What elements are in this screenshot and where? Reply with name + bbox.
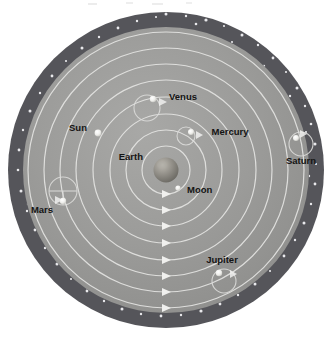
body-moon [175,185,180,190]
body-venus [150,96,156,102]
label-mars: Mars [31,204,53,215]
earth-highlight [157,162,167,169]
body-jupiter [216,270,222,276]
body-earth [154,158,179,183]
label-saturn: Saturn [286,155,316,166]
label-sun: Sun [69,122,87,133]
label-mercury: Mercury [212,126,250,137]
body-mars [60,198,66,204]
body-saturn [293,135,299,141]
body-mercury [188,129,194,135]
ptolemaic-model-svg: Earth Moon Sun Venus Mercury Mars Jupite… [0,0,332,337]
label-jupiter: Jupiter [206,254,238,265]
label-earth: Earth [119,151,143,162]
diagram-canvas: Earth Moon Sun Venus Mercury Mars Jupite… [0,0,332,337]
label-moon: Moon [187,184,213,195]
body-sun [95,130,102,137]
label-venus: Venus [169,91,197,102]
